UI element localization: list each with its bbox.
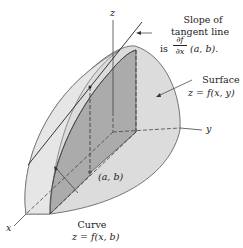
slope-label-line1: Slope of — [168, 15, 238, 25]
slope-arrowhead — [136, 31, 141, 35]
surface-label-line1: Surface — [196, 75, 243, 85]
z-axis-label: z — [110, 8, 115, 18]
slope-frac-num: ∂f — [173, 36, 187, 46]
curve-label-line1: Curve — [72, 220, 112, 230]
y-axis-label: y — [206, 124, 211, 134]
slope-label-suffix: (a, b). — [190, 44, 218, 54]
surface-label-line2: z = f(x, y) — [188, 88, 235, 98]
y-axis — [180, 128, 202, 130]
slope-label-line2: tangent line — [160, 27, 240, 37]
curve-label-line2: z = f(x, b) — [72, 232, 119, 242]
x-axis — [14, 214, 26, 226]
slope-label-prefix: is — [160, 44, 168, 54]
point-ab — [88, 170, 92, 174]
tangent-point — [89, 86, 92, 89]
point-label: (a, b) — [98, 172, 123, 182]
slope-frac-den: ∂x — [173, 48, 187, 57]
x-axis-label: x — [6, 223, 11, 233]
